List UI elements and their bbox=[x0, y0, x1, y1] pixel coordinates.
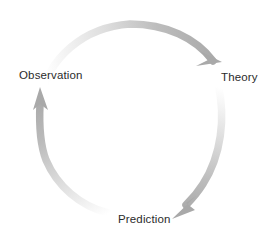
node-label-observation: Observation bbox=[19, 69, 83, 82]
node-label-prediction: Prediction bbox=[118, 213, 171, 226]
arrow-theory-to-prediction-head bbox=[172, 196, 196, 219]
arrow-theory-to-prediction-shaft bbox=[186, 84, 222, 205]
arrow-prediction-to-observation-shaft bbox=[40, 104, 108, 213]
cycle-arrows-graphic bbox=[0, 0, 260, 237]
cycle-diagram: Observation Theory Prediction bbox=[0, 0, 260, 237]
arrow-prediction-to-observation bbox=[33, 87, 108, 213]
node-label-theory: Theory bbox=[221, 71, 258, 84]
arrow-observation-to-theory-shaft bbox=[41, 24, 213, 100]
arrow-theory-to-prediction bbox=[172, 84, 222, 219]
arrow-observation-to-theory bbox=[41, 24, 222, 100]
